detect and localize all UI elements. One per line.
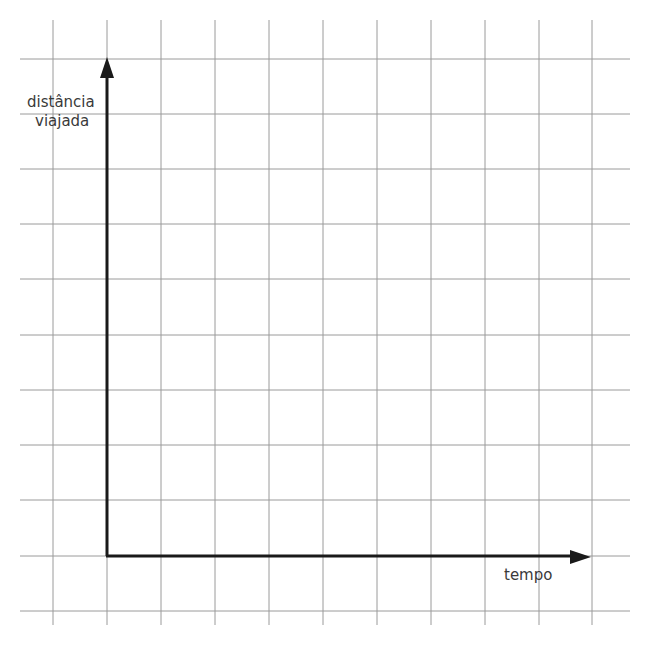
graph-diagram: distância viajada tempo xyxy=(0,0,647,651)
y-axis-label-line2: viajada xyxy=(27,112,95,131)
x-axis xyxy=(106,550,591,564)
x-axis-label: tempo xyxy=(504,566,552,585)
graph-grid xyxy=(0,0,647,651)
grid-lines xyxy=(20,20,630,625)
y-axis-label: distância viajada xyxy=(27,93,95,131)
x-axis-arrowhead-icon xyxy=(570,550,591,564)
y-axis xyxy=(100,57,114,556)
y-axis-arrowhead-icon xyxy=(100,57,114,78)
y-axis-label-line1: distância xyxy=(27,93,95,112)
